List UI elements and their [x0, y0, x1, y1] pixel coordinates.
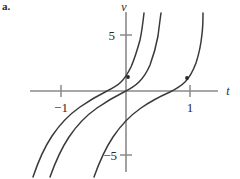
figure-container: v t 5 −5 −1 1 a. — [0, 0, 240, 179]
figure-label: a. — [2, 0, 11, 12]
tick-label-t-neg1: −1 — [54, 100, 68, 115]
plot-canvas: v t 5 −5 −1 1 a. — [0, 0, 240, 179]
labels-group: v t 5 −5 −1 1 a. — [2, 0, 230, 163]
curves-group — [33, 13, 203, 177]
curve-left — [33, 13, 144, 177]
tick-label-v-neg5: −5 — [103, 148, 117, 163]
tick-label-v-pos5: 5 — [109, 28, 116, 43]
axis-label-t: t — [226, 84, 230, 98]
marked-points-group — [126, 75, 189, 80]
tick-label-t-pos1: 1 — [187, 100, 194, 115]
point-marker-right-curve — [185, 76, 189, 80]
point-marker-origin-curve — [126, 75, 130, 79]
axis-label-v: v — [121, 0, 127, 14]
